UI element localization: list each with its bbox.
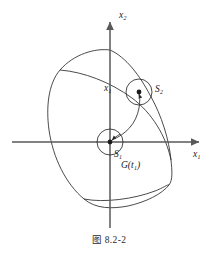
axis-label-x2: x2 (119, 11, 126, 22)
circle-label-s1-sub: 1 (119, 154, 122, 160)
point-label-x1: x1 (104, 84, 111, 95)
region-label-g: G(t1) (121, 161, 140, 172)
figure-container: x2 x1 x1 S2 S1 G(t1) 图 8.2-2 (0, 0, 218, 253)
point-marker-s2 (137, 90, 142, 95)
point-marker-s1 (108, 140, 113, 145)
axis-label-x1: x1 (193, 150, 200, 161)
region-label-g-prefix: G(t (121, 160, 134, 170)
circle-label-s1: S1 (114, 150, 122, 161)
circle-label-s2-sub: 2 (160, 89, 163, 95)
circle-label-s2: S2 (155, 85, 163, 96)
region-inner-arc-lower (84, 185, 169, 201)
figure-caption: 图 8.2-2 (0, 232, 218, 246)
point-label-x1-sub: 1 (108, 88, 111, 94)
diagram-canvas (0, 0, 218, 253)
axis-label-x1-sub: 1 (197, 154, 200, 160)
axis-label-x2-sub: 2 (123, 15, 126, 21)
region-label-g-suffix: ) (137, 160, 140, 170)
